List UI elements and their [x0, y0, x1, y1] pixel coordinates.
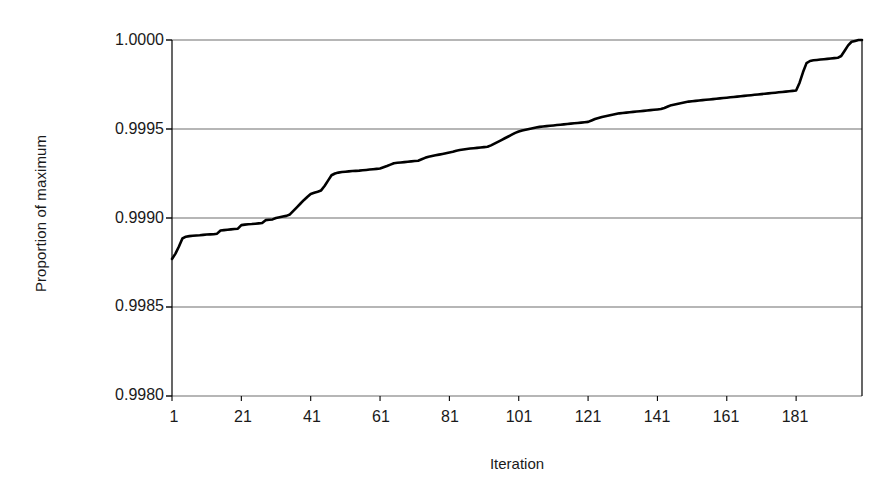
series-line	[172, 40, 862, 259]
plot-area	[0, 0, 891, 499]
chart-figure: Proportion of maximum 1.0000 0.9995 0.99…	[0, 0, 891, 499]
data-series	[172, 40, 862, 259]
axis-ticks	[166, 40, 796, 401]
